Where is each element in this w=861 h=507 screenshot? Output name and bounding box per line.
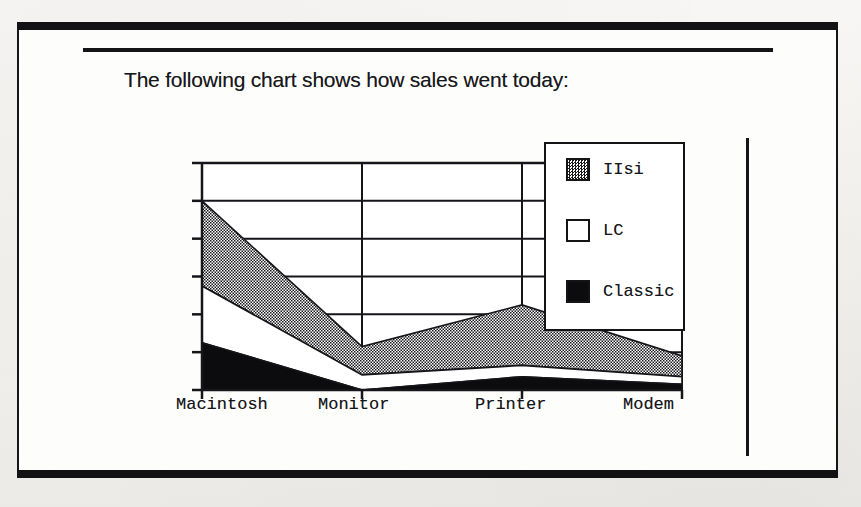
vertical-rule	[746, 138, 749, 456]
legend-item-lc[interactable]: LC	[566, 219, 623, 242]
legend-swatch-iisi-icon	[566, 158, 590, 181]
page-title: The following chart shows how sales went…	[124, 68, 569, 92]
legend-label-classic: Classic	[603, 282, 674, 301]
x-tick-label-modem: Modem	[623, 395, 674, 414]
x-tick-label-printer: Printer	[475, 395, 546, 414]
frame-bottom-bar	[17, 470, 838, 478]
horizontal-rule	[83, 48, 773, 52]
legend-label-iisi: IIsi	[603, 160, 644, 179]
frame-top-bar	[17, 22, 838, 30]
legend-item-iisi[interactable]: IIsi	[566, 158, 644, 181]
scanned-page: The following chart shows how sales went…	[0, 0, 861, 507]
legend-item-classic[interactable]: Classic	[566, 280, 674, 303]
chart-legend: IIsi LC Classic	[544, 142, 685, 331]
legend-swatch-lc-icon	[566, 219, 590, 242]
legend-swatch-classic-icon	[566, 280, 590, 303]
x-tick-label-macintosh: Macintosh	[176, 395, 268, 414]
x-tick-label-monitor: Monitor	[318, 395, 389, 414]
legend-label-lc: LC	[603, 221, 623, 240]
